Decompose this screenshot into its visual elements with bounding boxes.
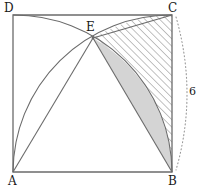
vertex-e-dot <box>92 37 95 40</box>
figure-canvas <box>0 0 207 189</box>
dimension-label-6: 6 <box>189 86 196 97</box>
vertex-label-b: B <box>168 175 177 187</box>
segment-a-e <box>13 38 93 172</box>
vertex-label-d: D <box>4 2 14 14</box>
geometry-figure: D C A B E 6 <box>0 0 207 189</box>
vertex-label-e: E <box>86 21 95 33</box>
dimension-arc-bc <box>176 17 187 170</box>
vertex-label-a: A <box>8 175 17 187</box>
vertex-label-c: C <box>168 2 177 14</box>
